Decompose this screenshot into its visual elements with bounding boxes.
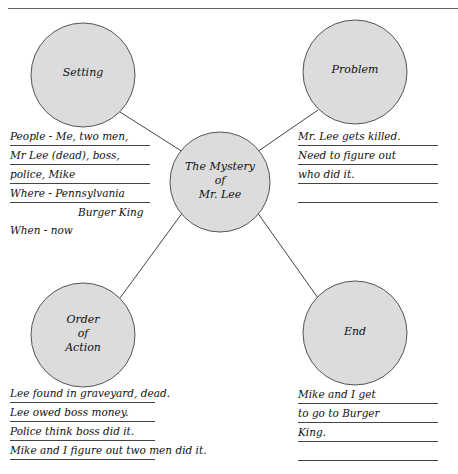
note-line: to go to Burger (298, 404, 438, 423)
end-notes: Mike and I get to go to Burger King. (298, 385, 438, 461)
order-label: Order of Action (33, 313, 133, 355)
center-label-line: of (170, 174, 270, 188)
note-line: Need to figure out (298, 146, 438, 165)
note-line: Lee owed boss money. (10, 403, 155, 422)
order-notes: Lee found in graveyard, dead. Lee owed b… (10, 384, 155, 460)
problem-label: Problem (305, 63, 405, 77)
note-line: Mike and I get (298, 385, 438, 404)
note-line: Lee found in graveyard, dead. (10, 384, 155, 403)
note-line: Police think boss did it. (10, 422, 155, 441)
note-line: Burger King (10, 203, 150, 221)
note-line (298, 442, 438, 461)
order-label-line: Order (33, 313, 133, 327)
end-label: End (305, 325, 405, 339)
setting-label: Setting (33, 66, 133, 80)
center-label-line: Mr. Lee (170, 188, 270, 202)
note-line: police, Mike (10, 165, 150, 184)
note-line: Mr Lee (dead), boss, (10, 146, 150, 165)
connector-end (257, 212, 318, 298)
note-line: who did it. (298, 165, 438, 184)
center-label-line: The Mystery (170, 160, 270, 174)
note-line (298, 184, 438, 203)
note-line: People - Me, two men, (10, 127, 150, 146)
note-line: King. (298, 423, 438, 442)
order-label-line: Action (33, 341, 133, 355)
order-label-line: of (33, 327, 133, 341)
note-line: When - now (10, 221, 150, 239)
problem-notes: Mr. Lee gets killed. Need to figure out … (298, 127, 438, 203)
setting-notes: People - Me, two men, Mr Lee (dead), bos… (10, 127, 150, 239)
note-line: Where - Pennsylvania (10, 184, 150, 203)
center-label: The Mystery of Mr. Lee (170, 160, 270, 202)
note-line: Mr. Lee gets killed. (298, 127, 438, 146)
note-line: Mike and I figure out two men did it. (10, 441, 155, 460)
